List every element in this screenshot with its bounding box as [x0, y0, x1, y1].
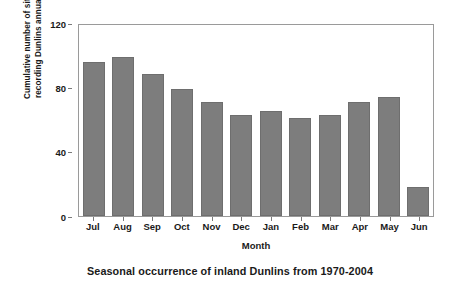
x-axis-tick-label: Jan [263, 221, 279, 232]
bar-jun[interactable] [407, 187, 429, 216]
bar-slot [168, 25, 198, 216]
bar-apr[interactable] [348, 102, 370, 216]
x-axis-tick-mark [93, 217, 94, 221]
x-axis-tick-mark [360, 217, 361, 221]
x-axis-tick-mark [419, 217, 420, 221]
bar-slot [227, 25, 257, 216]
bar-series [79, 25, 433, 216]
y-axis-tick-label: 80 [55, 83, 66, 94]
bar-may[interactable] [378, 97, 400, 216]
bar-slot [315, 25, 345, 216]
bar-sep[interactable] [142, 74, 164, 216]
chart-figure: Cumulative number of sites recording Dun… [0, 0, 460, 300]
x-axis-tick-jun: Jun [404, 221, 434, 235]
bar-slot [374, 25, 404, 216]
x-axis-tick-apr: Apr [345, 221, 375, 235]
bar-aug[interactable] [112, 57, 134, 216]
x-axis-tick-dec: Dec [226, 221, 256, 235]
y-axis-tick-mark [68, 24, 72, 25]
chart-caption: Seasonal occurrence of inland Dunlins fr… [0, 265, 460, 277]
x-axis-tick-labels: JulAugSepOctNovDecJanFebMarAprMayJun [78, 221, 434, 235]
x-axis-tick-may: May [375, 221, 405, 235]
bar-feb[interactable] [289, 118, 311, 216]
x-axis-tick-label: Oct [174, 221, 190, 232]
y-axis-tick-mark [68, 152, 72, 153]
x-axis-tick-jan: Jan [256, 221, 286, 235]
x-axis-tick-mark [241, 217, 242, 221]
y-axis-tick-mark [68, 217, 72, 218]
x-axis-tick-aug: Aug [108, 221, 138, 235]
x-axis-tick-mark [271, 217, 272, 221]
x-axis-tick-label: Dec [232, 221, 249, 232]
bar-slot [404, 25, 434, 216]
x-axis-tick-jul: Jul [78, 221, 108, 235]
x-axis-tick-label: Feb [292, 221, 309, 232]
x-axis-tick-oct: Oct [167, 221, 197, 235]
x-axis-tick-mar: Mar [315, 221, 345, 235]
bar-jan[interactable] [260, 111, 282, 216]
x-axis-tick-mark [152, 217, 153, 221]
x-axis-tick-label: Mar [322, 221, 339, 232]
x-axis-tick-label: Jun [411, 221, 428, 232]
x-axis-tick-mark [182, 217, 183, 221]
x-axis-tick-label: Apr [352, 221, 368, 232]
bar-jul[interactable] [83, 62, 105, 216]
y-axis-tick-0: 0 [38, 213, 66, 222]
y-axis-tick-label: 120 [50, 19, 66, 30]
bar-mar[interactable] [319, 115, 341, 216]
bar-nov[interactable] [201, 102, 223, 216]
plot-area [78, 24, 434, 217]
y-axis-tick-mark [68, 88, 72, 89]
y-axis-tick-40: 40 [38, 148, 66, 157]
y-axis-tick-120: 120 [38, 20, 66, 29]
bar-oct[interactable] [171, 89, 193, 216]
bar-slot [286, 25, 316, 216]
bar-slot [256, 25, 286, 216]
x-axis-tick-label: May [380, 221, 398, 232]
y-axis-tick-label: 40 [55, 147, 66, 158]
x-axis-tick-label: Nov [203, 221, 221, 232]
x-axis-tick-feb: Feb [286, 221, 316, 235]
x-axis-tick-label: Sep [143, 221, 160, 232]
x-axis-tick-mark [301, 217, 302, 221]
bar-slot [138, 25, 168, 216]
x-axis-tick-sep: Sep [137, 221, 167, 235]
bar-dec[interactable] [230, 115, 252, 216]
x-axis-tick-mark [212, 217, 213, 221]
x-axis-tick-label: Jul [86, 221, 100, 232]
x-axis-tick-label: Aug [113, 221, 131, 232]
bar-slot [109, 25, 139, 216]
bar-slot [197, 25, 227, 216]
x-axis-tick-mark [390, 217, 391, 221]
x-axis-title: Month [78, 240, 434, 251]
bar-slot [79, 25, 109, 216]
x-axis-tick-mark [330, 217, 331, 221]
x-axis-tick-nov: Nov [197, 221, 227, 235]
bar-slot [345, 25, 375, 216]
x-axis-tick-mark [123, 217, 124, 221]
y-axis-tick-80: 80 [38, 84, 66, 93]
y-axis-tick-label: 0 [61, 212, 66, 223]
